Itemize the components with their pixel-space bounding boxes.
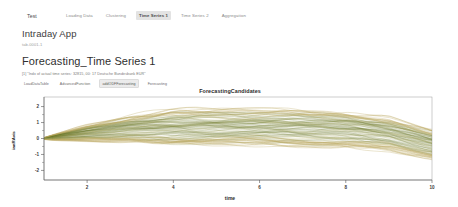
chart-x-axis-label: time [18,195,442,201]
navbar-items: Loading Data Clustering Time Series 1 Ti… [63,11,249,20]
nav-tab-clustering[interactable]: Clustering [103,11,129,20]
page-content: Intraday App tab-0001-1 Forecasting_Time… [22,28,442,94]
nav-tab-aggregation[interactable]: Aggregation [219,11,249,20]
section-title: Forecasting_Time Series 1 [22,55,442,67]
svg-text:6: 6 [258,185,261,190]
svg-text:2: 2 [86,185,89,190]
nav-tab-loading-data[interactable]: Loading Data [63,11,96,20]
page-title: Intraday App [22,28,442,39]
svg-text:0: 0 [36,136,39,141]
chart-y-axis-label: ianRAvis [11,131,16,150]
svg-text:2: 2 [36,104,39,109]
advanced-function-button[interactable]: AdvancedFunction [58,80,93,87]
svg-text:-1: -1 [35,152,40,157]
add-odf-forecasting-button[interactable]: addODFForecasting [99,79,138,88]
chart-plot-area: 246810-2-1012 [18,94,442,194]
nav-tab-time-series-2[interactable]: Time Series 2 [178,11,212,20]
action-button-row: LoadDataTable AdvancedFunction addODFFor… [22,79,442,88]
svg-text:4: 4 [172,185,175,190]
svg-text:10: 10 [429,185,435,190]
console-note-1: [1] "Indx of actual time series: 32815, … [22,72,442,76]
navbar-brand[interactable]: Test [27,13,37,19]
svg-text:-2: -2 [35,168,40,173]
page-subtitle: tab-0001-1 [22,42,442,47]
top-navbar: Test Loading Data Clustering Time Series… [0,9,458,22]
load-data-table-button[interactable]: LoadDataTable [22,80,51,87]
app-page: Test Loading Data Clustering Time Series… [0,0,458,207]
forecasting-chart: ForecastingCandidates ianRAvis time 2468… [18,88,442,200]
forecasting-button[interactable]: Forecasting [146,80,169,87]
nav-tab-time-series-1[interactable]: Time Series 1 [136,11,171,20]
svg-text:8: 8 [344,185,347,190]
svg-text:1: 1 [36,120,39,125]
